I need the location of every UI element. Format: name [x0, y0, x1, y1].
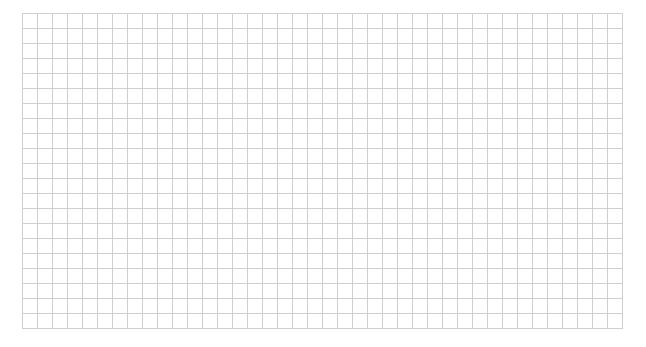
- clipped-header-text: [40, 0, 200, 4]
- graph-paper-grid: [22, 13, 623, 329]
